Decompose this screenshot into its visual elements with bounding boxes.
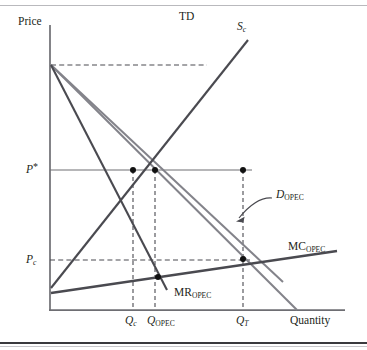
x-tick-q-competitive: Qc xyxy=(125,315,137,327)
x-tick-qt-sub: T xyxy=(244,319,248,328)
label-mropec-sub: OPEC xyxy=(192,291,211,300)
label-mcopec-sub: OPEC xyxy=(306,245,325,254)
x-tick-q-total: QT xyxy=(236,315,249,327)
label-mcopec-base: MC xyxy=(288,240,306,252)
point-pc-on-mc xyxy=(240,256,246,262)
label-sc-base: S xyxy=(237,20,243,32)
figure-root: Price Quantity TD Sc DOPEC MCOPEC MROPEC… xyxy=(0,0,367,350)
x-tick-q-opec: QOPEC xyxy=(147,315,175,327)
y-tick-p-star-base: P xyxy=(26,163,33,175)
y-tick-p-star: P* xyxy=(26,164,38,176)
label-td-text: TD xyxy=(179,10,194,22)
label-opec-marginal-revenue: MROPEC xyxy=(174,287,211,299)
curve-total-demand xyxy=(51,65,297,310)
y-tick-pc-sub: c xyxy=(33,258,36,267)
label-opec-marginal-cost: MCOPEC xyxy=(288,241,325,253)
x-tick-qc-sub: c xyxy=(133,319,136,328)
d-opec-pointer-arrow xyxy=(239,198,272,218)
point-qopec-pstar xyxy=(152,167,158,173)
x-tick-qopec-sub: OPEC xyxy=(155,319,174,328)
d-opec-pointer-arrowhead xyxy=(236,217,245,223)
y-tick-p-star-sup: * xyxy=(33,161,38,172)
curve-opec-demand xyxy=(51,65,283,282)
label-sc-sub: c xyxy=(243,25,246,34)
curve-competitive-supply xyxy=(51,40,248,288)
y-tick-p-competitive: Pc xyxy=(26,254,36,266)
label-competitive-supply: Sc xyxy=(237,21,246,33)
y-axis-title: Price xyxy=(18,16,42,28)
point-mr-equals-mc xyxy=(155,274,161,280)
label-opec-demand: DOPEC xyxy=(276,189,304,201)
curve-opec-marginal-revenue xyxy=(51,65,167,290)
label-dopec-sub: OPEC xyxy=(284,193,303,202)
y-tick-pc-base: P xyxy=(26,253,33,265)
x-axis-title: Quantity xyxy=(290,315,330,327)
label-total-demand: TD xyxy=(179,11,194,23)
point-qt-pstar xyxy=(240,167,246,173)
point-qc-pstar xyxy=(130,167,136,173)
label-mropec-base: MR xyxy=(174,286,192,298)
